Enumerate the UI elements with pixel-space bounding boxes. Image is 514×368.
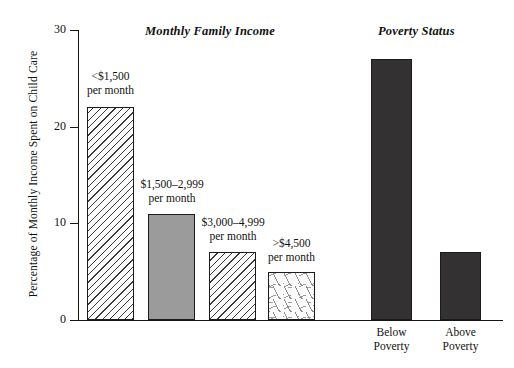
bar-income-under-1500 bbox=[87, 107, 134, 320]
x-label-line1: Below bbox=[352, 326, 431, 340]
panel-heading-monthly-family-income: Monthly Family Income bbox=[145, 24, 275, 39]
bar-caption-income-1500-2999: $1,500–2,999 per month bbox=[122, 178, 222, 205]
x-label-above-poverty: Above Poverty bbox=[421, 326, 500, 353]
y-tick-30 bbox=[70, 30, 78, 31]
bar-poverty-below bbox=[371, 59, 412, 320]
y-tick-label-10: 10 bbox=[26, 215, 66, 230]
y-tick-label-20: 20 bbox=[26, 119, 66, 134]
bar-caption-line2: per month bbox=[245, 251, 338, 265]
y-tick-10 bbox=[70, 223, 78, 224]
bar-caption-line1: $1,500–2,999 bbox=[122, 178, 222, 192]
y-tick-20 bbox=[70, 127, 78, 128]
x-label-line2: Poverty bbox=[421, 340, 500, 354]
bar-caption-income-under-1500: <$1,500 per month bbox=[60, 70, 161, 97]
bar-caption-line1: >$4,500 bbox=[245, 237, 338, 251]
y-tick-0 bbox=[70, 320, 78, 321]
bar-poverty-above bbox=[440, 252, 481, 320]
x-label-line1: Above bbox=[421, 326, 500, 340]
bar-income-over-4500 bbox=[268, 272, 315, 320]
y-tick-label-30: 30 bbox=[26, 22, 66, 37]
bar-caption-income-over-4500: >$4,500 per month bbox=[245, 237, 338, 264]
bar-caption-line2: per month bbox=[122, 192, 222, 206]
y-tick-label-0: 0 bbox=[26, 312, 66, 327]
bar-caption-line1: $3,000–4,999 bbox=[183, 216, 283, 230]
bar-chart: Percentage of Monthly Income Spent on Ch… bbox=[0, 0, 514, 368]
x-label-below-poverty: Below Poverty bbox=[352, 326, 431, 353]
y-axis-title: Percentage of Monthly Income Spent on Ch… bbox=[27, 24, 39, 324]
x-axis-line bbox=[78, 320, 503, 321]
bar-caption-line1: <$1,500 bbox=[60, 70, 161, 84]
x-label-line2: Poverty bbox=[352, 340, 431, 354]
panel-heading-poverty-status: Poverty Status bbox=[378, 24, 455, 39]
bar-caption-line2: per month bbox=[60, 84, 161, 98]
